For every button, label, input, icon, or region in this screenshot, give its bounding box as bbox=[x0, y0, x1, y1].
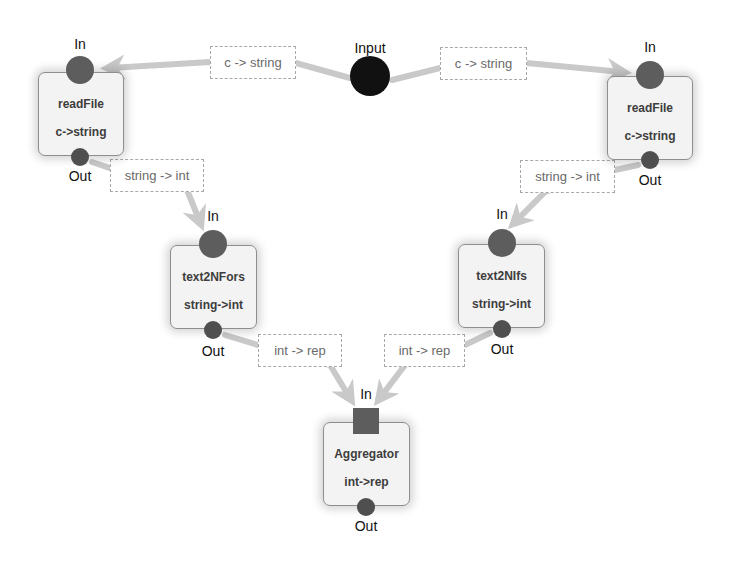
node-signature: string->int bbox=[171, 298, 256, 312]
edge-label-text2nifs-aggregator: int -> rep bbox=[384, 334, 465, 367]
node-signature: c->string bbox=[608, 129, 692, 143]
node-title: readFile bbox=[39, 97, 123, 111]
out-port-text2nifs[interactable] bbox=[493, 320, 511, 338]
dataflow-diagram: Input c -> string c -> string string -> … bbox=[0, 0, 729, 566]
node-title: text2NIfs bbox=[459, 269, 544, 283]
out-port-label: Out bbox=[482, 341, 522, 357]
out-port-label: Out bbox=[60, 168, 100, 184]
out-port-label: Out bbox=[630, 172, 670, 188]
node-readfile-left[interactable]: readFile c->string bbox=[38, 72, 124, 156]
node-title: text2NFors bbox=[171, 270, 256, 284]
in-port-aggregator[interactable] bbox=[353, 408, 379, 434]
out-port-text2nfors[interactable] bbox=[204, 321, 222, 339]
in-port-label: In bbox=[193, 208, 233, 224]
node-signature: c->string bbox=[39, 125, 123, 139]
edge-label-input-readfile-left: c -> string bbox=[210, 46, 296, 79]
out-port-label: Out bbox=[346, 518, 386, 534]
in-port-readfile-left[interactable] bbox=[66, 56, 94, 84]
node-title: readFile bbox=[608, 101, 692, 115]
node-title: Aggregator bbox=[324, 447, 409, 461]
edge-label-readfile-right-text2nifs: string -> int bbox=[520, 160, 615, 193]
edge-label-text2nfors-aggregator: int -> rep bbox=[258, 334, 342, 367]
out-port-readfile-right[interactable] bbox=[641, 151, 659, 169]
node-aggregator[interactable]: Aggregator int->rep bbox=[323, 422, 410, 506]
in-port-label: In bbox=[346, 386, 386, 402]
edge-label-input-readfile-right: c -> string bbox=[440, 47, 527, 80]
in-port-readfile-right[interactable] bbox=[636, 61, 664, 89]
node-signature: int->rep bbox=[324, 475, 409, 489]
edge-label-readfile-left-text2nfors: string -> int bbox=[110, 159, 204, 192]
node-signature: string->int bbox=[459, 297, 544, 311]
in-port-text2nfors[interactable] bbox=[199, 230, 227, 258]
in-port-label: In bbox=[630, 39, 670, 55]
out-port-readfile-left[interactable] bbox=[71, 148, 89, 166]
input-source-node[interactable] bbox=[350, 56, 390, 96]
out-port-aggregator[interactable] bbox=[357, 498, 375, 516]
in-port-label: In bbox=[60, 36, 100, 52]
input-label: Input bbox=[350, 40, 390, 56]
in-port-text2nifs[interactable] bbox=[488, 229, 516, 257]
in-port-label: In bbox=[482, 206, 522, 222]
out-port-label: Out bbox=[193, 343, 233, 359]
